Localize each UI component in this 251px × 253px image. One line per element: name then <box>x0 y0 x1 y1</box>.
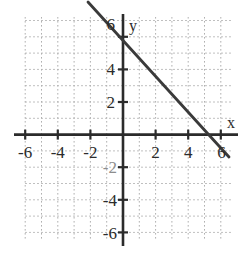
y-axis-label: y <box>129 17 137 35</box>
x-tick-label-4: 4 <box>184 143 193 162</box>
y-tick-label-neg4: -4 <box>103 191 118 210</box>
plot-area: -6 -4 -2 2 4 6 6 4 2 -2 -4 -6 x y <box>0 0 251 253</box>
y-tick-label-4: 4 <box>107 60 116 79</box>
x-axis-label: x <box>227 114 235 131</box>
y-tick-label-2: 2 <box>107 93 116 112</box>
x-tick-label-neg6: -6 <box>18 143 32 162</box>
y-tick-label-neg2: -2 <box>103 158 117 177</box>
x-tick-label-neg4: -4 <box>51 143 66 162</box>
x-tick-label-2: 2 <box>151 143 160 162</box>
x-tick-label-neg2: -2 <box>83 143 97 162</box>
coordinate-plane-figure: -6 -4 -2 2 4 6 6 4 2 -2 -4 -6 x y <box>0 0 251 253</box>
y-tick-label-neg6: -6 <box>103 224 117 243</box>
graph-svg: -6 -4 -2 2 4 6 6 4 2 -2 -4 -6 x y <box>0 0 251 253</box>
x-tick-label-6: 6 <box>217 143 226 162</box>
y-tick-label-6: 6 <box>107 15 116 34</box>
